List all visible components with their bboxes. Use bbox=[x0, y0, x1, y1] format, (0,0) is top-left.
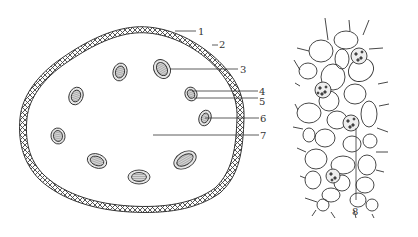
label-5: 5 bbox=[259, 96, 265, 107]
label-8: 8 bbox=[352, 206, 358, 217]
plastid bbox=[183, 85, 199, 102]
plastid bbox=[85, 151, 109, 171]
plastid bbox=[66, 85, 85, 107]
label-3: 3 bbox=[240, 64, 246, 75]
label-7: 7 bbox=[260, 130, 266, 141]
plastids bbox=[50, 56, 214, 184]
label-2: 2 bbox=[219, 39, 225, 50]
caption bbox=[60, 224, 390, 232]
cells-with-contents bbox=[315, 48, 367, 183]
plastid bbox=[128, 170, 150, 184]
diagram-canvas: 1 2 3 4 5 6 7 bbox=[0, 0, 418, 237]
plastid bbox=[50, 127, 67, 145]
plastid bbox=[171, 147, 200, 173]
tissue-diagram bbox=[293, 18, 389, 218]
figure: 1 2 3 4 5 6 7 bbox=[0, 0, 418, 237]
label-1: 1 bbox=[198, 26, 204, 37]
label-6: 6 bbox=[260, 113, 266, 124]
cell-diagram: 1 2 3 4 5 6 7 bbox=[20, 26, 267, 212]
plastid bbox=[111, 61, 129, 82]
